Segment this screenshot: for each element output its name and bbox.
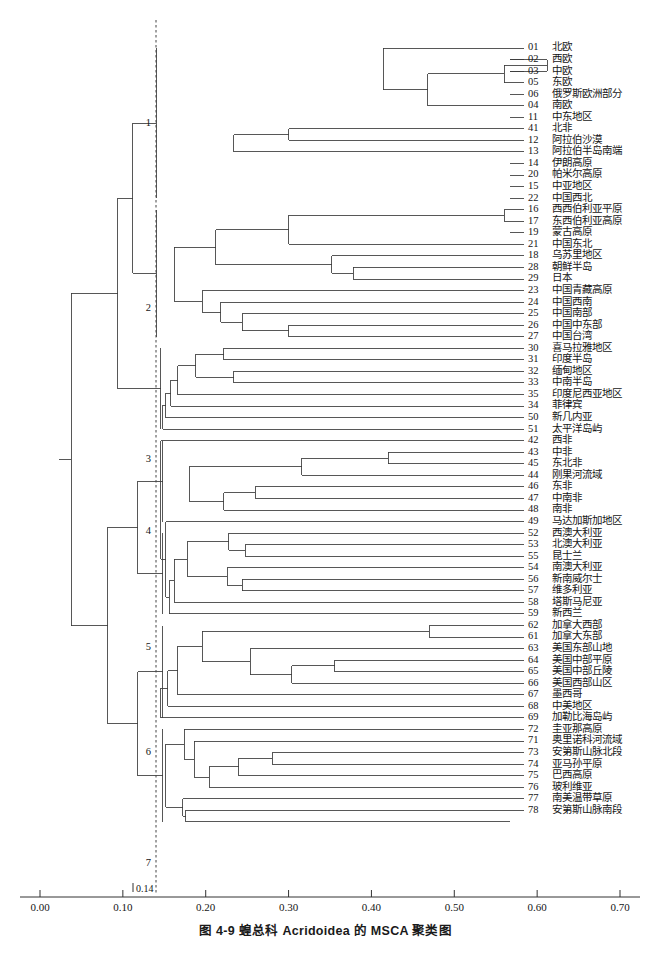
leaf-label: 乌苏里地区 — [552, 248, 602, 260]
leaf-label: 北澳大利亚 — [552, 537, 603, 549]
leaf-label: 中国南部 — [552, 306, 592, 318]
leaf-label: 西澳大利亚 — [552, 526, 603, 538]
axis-tick-label: 0.30 — [279, 901, 299, 913]
leaf-code: 71 — [528, 734, 539, 745]
leaf-code: 77 — [528, 792, 539, 803]
leaf-label: 太平洋岛屿 — [552, 422, 602, 434]
leaf-code: 34 — [528, 399, 539, 410]
cluster-number: 2 — [146, 302, 151, 313]
leaf-code: 16 — [528, 203, 539, 214]
leaf-label: 中国中东部 — [552, 318, 602, 330]
dendrogram-links — [59, 48, 547, 822]
axis-tick-label: 0.20 — [196, 901, 216, 913]
leaf-label: 南美温带草原 — [552, 791, 612, 803]
leaf-label: 中亚地区 — [552, 179, 592, 191]
leaf-label: 印度尼西亚地区 — [552, 387, 622, 399]
axis-tick-label: 0.60 — [528, 901, 548, 913]
leaf-code: 52 — [528, 527, 539, 538]
cut-value-label: 0.14 — [136, 883, 154, 894]
leaf-label: 美国西部山区 — [552, 676, 612, 688]
leaf-code: 78 — [528, 804, 539, 815]
axis-tick-label: 0.50 — [445, 901, 465, 913]
x-axis: 0.000.100.200.300.400.500.600.700.14 — [20, 883, 640, 913]
leaf-code: 43 — [528, 446, 539, 457]
leaf-code: 58 — [528, 596, 539, 607]
leaf-label: 安第斯山脉南段 — [552, 803, 623, 815]
leaf-label: 菲律宾 — [552, 398, 582, 410]
leaf-code: 13 — [528, 145, 539, 156]
leaf-code: 67 — [528, 688, 539, 699]
leaf-code: 66 — [528, 677, 539, 688]
leaf-label: 西西伯利亚平原 — [552, 202, 622, 214]
leaf-label: 伊朗高原 — [552, 156, 592, 168]
cluster-numbers: 1234567 — [146, 117, 152, 868]
leaf-label: 中南半岛 — [552, 375, 592, 387]
leaf-label: 北非 — [552, 122, 573, 133]
leaf-label: 阿拉伯半岛南端 — [552, 144, 623, 156]
leaf-label: 圭亚那高原 — [552, 722, 602, 734]
axis-tick-label: 0.00 — [30, 901, 50, 913]
leaf-code: 19 — [528, 226, 539, 237]
leaf-code: 51 — [528, 423, 539, 434]
leaf-code: 25 — [528, 307, 539, 318]
leaf-code: 48 — [528, 503, 539, 514]
leaf-label: 中非 — [552, 445, 573, 457]
leaf-label: 北欧 — [552, 41, 573, 52]
leaf-label: 帕米尔高原 — [552, 167, 602, 179]
leaf-label: 巴西高原 — [552, 768, 592, 780]
cluster-number: 5 — [146, 641, 151, 652]
leaf-label: 俄罗斯欧洲部分 — [552, 87, 623, 99]
leaf-code: 65 — [528, 665, 539, 676]
leaf-code: 33 — [528, 376, 539, 387]
leaf-label: 印度半岛 — [552, 352, 592, 364]
leaf-code: 64 — [528, 654, 539, 665]
leaf-label: 美国中部平原 — [552, 653, 612, 665]
leaf-label: 新南威尔士 — [552, 572, 602, 584]
leaf-label: 阿拉伯沙漠 — [552, 133, 603, 145]
leaf-label: 蒙古高原 — [552, 225, 592, 237]
leaf-label: 中国东北 — [552, 237, 593, 249]
cluster-number: 4 — [146, 525, 152, 536]
leaf-code: 72 — [528, 723, 539, 734]
leaf-code: 76 — [528, 781, 539, 792]
leaf-code: 17 — [528, 215, 539, 226]
leaf-code: 01 — [528, 41, 539, 52]
leaf-label: 美国东部山地 — [552, 641, 613, 653]
axis-tick-label: 0.70 — [610, 901, 630, 913]
leaf-label: 安第斯山脉北段 — [552, 745, 623, 757]
leaf-code: 68 — [528, 700, 539, 711]
leaf-label: 昆士兰 — [552, 549, 582, 561]
leaf-label: 西欧 — [552, 53, 573, 64]
leaf-code: 62 — [528, 619, 539, 630]
leaf-code: 56 — [528, 573, 539, 584]
leaf-code: 63 — [528, 642, 539, 653]
leaf-code: 46 — [528, 480, 539, 491]
leaf-labels: 01北欧02西欧03中欧05东欧06俄罗斯欧洲部分04南欧11中东地区41北非1… — [528, 41, 623, 814]
leaf-code: 21 — [528, 238, 539, 249]
cluster-number: 7 — [146, 857, 151, 868]
leaf-label: 东欧 — [552, 75, 573, 87]
leaf-code: 41 — [528, 122, 539, 133]
leaf-code: 29 — [528, 272, 539, 283]
leaf-label: 中国台湾 — [552, 329, 593, 341]
leaf-code: 11 — [528, 111, 538, 122]
leaf-code: 54 — [528, 561, 539, 572]
leaf-code: 05 — [528, 76, 539, 87]
leaf-code: 30 — [528, 342, 539, 353]
leaf-code: 59 — [528, 607, 539, 618]
leaf-code: 02 — [528, 53, 539, 64]
leaf-label: 朝鲜半岛 — [552, 260, 592, 272]
leaf-label: 南非 — [552, 502, 573, 514]
axis-tick-label: 0.10 — [113, 901, 133, 913]
leaf-code: 23 — [528, 284, 539, 295]
leaf-code: 31 — [528, 353, 539, 364]
cluster-number: 6 — [146, 746, 151, 757]
leaf-code: 03 — [528, 65, 539, 76]
leaf-code: 18 — [528, 249, 539, 260]
leaf-label: 亚马孙平原 — [552, 757, 602, 769]
leaf-label: 墨西哥 — [552, 688, 582, 699]
leaf-label: 加拿大东部 — [552, 629, 602, 641]
leaf-code: 50 — [528, 411, 539, 422]
leaf-code: 55 — [528, 550, 539, 561]
leaf-label: 东西伯利亚高原 — [552, 214, 622, 226]
